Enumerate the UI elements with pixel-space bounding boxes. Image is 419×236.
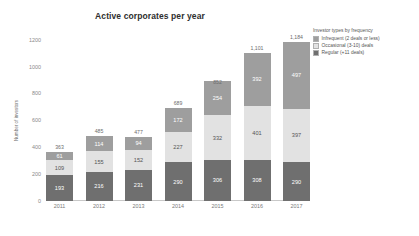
y-tick-label: 600 bbox=[32, 117, 41, 123]
bar-column[interactable]: 852254332306 bbox=[204, 33, 231, 201]
bar-column[interactable]: 36361109193 bbox=[46, 33, 73, 201]
bar-total-label: 485 bbox=[86, 128, 113, 134]
legend-swatch-icon bbox=[313, 50, 319, 56]
legend-rows: Infrequent (2 deals or less)Occasional (… bbox=[313, 35, 380, 56]
x-tick-label: 2013 bbox=[125, 203, 152, 209]
y-tick-label: 400 bbox=[32, 144, 41, 150]
bar-segment-infrequent[interactable]: 172 bbox=[165, 108, 192, 131]
bar-total-label: 852 bbox=[204, 79, 231, 85]
bar-segment-infrequent[interactable]: 497 bbox=[283, 42, 310, 109]
bar-column[interactable]: 689172227290 bbox=[165, 33, 192, 201]
x-axis-labels: 2011201220132014201520162017 bbox=[46, 203, 310, 209]
bar-segment-infrequent[interactable]: 94 bbox=[125, 137, 152, 150]
legend: Investor types by frequency Infrequent (… bbox=[313, 27, 380, 56]
legend-item[interactable]: Occasional (3-10) deals bbox=[313, 42, 380, 49]
y-tick-label: 800 bbox=[32, 90, 41, 96]
chart-title: Active corporates per year bbox=[0, 11, 300, 21]
legend-item[interactable]: Infrequent (2 deals or less) bbox=[313, 35, 380, 42]
bar-segment-occasional[interactable]: 155 bbox=[86, 151, 113, 172]
bar-total-label: 477 bbox=[125, 129, 152, 135]
x-tick-label: 2015 bbox=[204, 203, 231, 209]
bar-column[interactable]: 485114155216 bbox=[86, 33, 113, 201]
legend-label: Occasional (3-10) deals bbox=[322, 42, 374, 49]
bar-total-label: 363 bbox=[46, 144, 73, 150]
legend-item[interactable]: Regular (+11 deals) bbox=[313, 49, 380, 56]
y-tick-label: 1000 bbox=[29, 64, 41, 70]
bar-group: 3636110919348511415521647794152231689172… bbox=[46, 33, 310, 201]
x-tick-label: 2012 bbox=[86, 203, 113, 209]
bar-total-label: 1,101 bbox=[244, 45, 271, 51]
bar-segment-occasional[interactable]: 401 bbox=[244, 106, 271, 160]
y-tick-label: 0 bbox=[38, 198, 41, 204]
bar-column[interactable]: 1,184497397290 bbox=[283, 33, 310, 201]
bar-segment-occasional[interactable]: 227 bbox=[165, 132, 192, 163]
bar-segment-occasional[interactable]: 109 bbox=[46, 160, 73, 175]
legend-title: Investor types by frequency bbox=[313, 27, 380, 34]
y-tick-label: 200 bbox=[32, 171, 41, 177]
bar-total-label: 689 bbox=[165, 100, 192, 106]
bar-segment-regular[interactable]: 231 bbox=[125, 170, 152, 201]
legend-label: Regular (+11 deals) bbox=[322, 49, 365, 56]
bar-segment-infrequent[interactable]: 114 bbox=[86, 136, 113, 151]
stacked-bar-chart: Active corporates per year Number of inv… bbox=[0, 0, 419, 236]
bar-segment-regular[interactable]: 193 bbox=[46, 175, 73, 201]
y-tick-label: 1200 bbox=[29, 37, 41, 43]
x-tick-label: 2014 bbox=[165, 203, 192, 209]
x-tick-label: 2011 bbox=[46, 203, 73, 209]
y-axis-label: Number of investors bbox=[14, 81, 19, 161]
legend-label: Infrequent (2 deals or less) bbox=[322, 35, 380, 42]
x-tick-label: 2017 bbox=[283, 203, 310, 209]
bar-segment-regular[interactable]: 306 bbox=[204, 160, 231, 201]
bar-segment-infrequent[interactable]: 392 bbox=[244, 53, 271, 106]
bar-segment-occasional[interactable]: 152 bbox=[125, 150, 152, 170]
bar-segment-infrequent[interactable]: 61 bbox=[46, 152, 73, 160]
bar-column[interactable]: 1,101392401308 bbox=[244, 33, 271, 201]
bar-column[interactable]: 47794152231 bbox=[125, 33, 152, 201]
legend-swatch-icon bbox=[313, 43, 319, 49]
bar-segment-infrequent[interactable]: 254 bbox=[204, 81, 231, 115]
bar-total-label: 1,184 bbox=[283, 34, 310, 40]
x-tick-label: 2016 bbox=[244, 203, 271, 209]
bar-segment-regular[interactable]: 308 bbox=[244, 160, 271, 201]
bar-segment-regular[interactable]: 216 bbox=[86, 172, 113, 201]
legend-swatch-icon bbox=[313, 36, 319, 42]
plot-area: 020040060080010001200 363611091934851141… bbox=[46, 33, 310, 201]
bar-segment-regular[interactable]: 290 bbox=[165, 162, 192, 201]
bar-segment-occasional[interactable]: 397 bbox=[283, 109, 310, 162]
bar-segment-occasional[interactable]: 332 bbox=[204, 115, 231, 160]
bar-segment-regular[interactable]: 290 bbox=[283, 162, 310, 201]
